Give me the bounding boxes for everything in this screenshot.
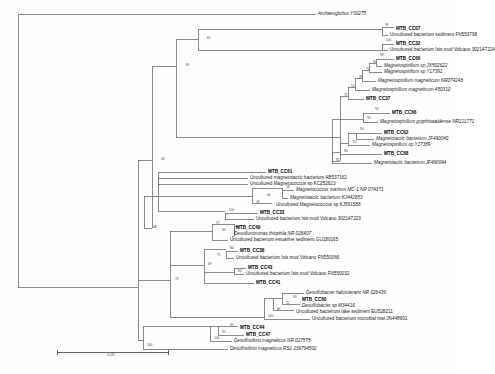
bootstrap-value: 98 (380, 54, 384, 57)
taxon-label: MTB_CC43 (248, 265, 272, 270)
taxon-label: Uncultured Magnetococcus sp KJ591588 (276, 202, 360, 207)
taxon-label: MTB_CC66 (396, 56, 420, 61)
bootstrap-value: 99 (385, 24, 389, 27)
taxon-label: MTB_CC66 (392, 110, 416, 115)
taxon-label: Magnetotactic bacterium JF490044 (374, 160, 446, 165)
scale-bar-label: 0.05 (108, 353, 115, 357)
bootstrap-value: 72 (344, 94, 348, 97)
taxon-label: MTB_CC68 (384, 151, 408, 156)
taxon-label: MTB_CC61 (268, 169, 292, 174)
bootstrap-value: 58 (256, 201, 260, 204)
bootstrap-value: 85 (186, 64, 190, 67)
bootstrap-value: 48 (153, 226, 157, 229)
taxon-label: Magnetococcus marinus MC-1 NR 074371 (296, 187, 384, 192)
taxon-label: Uncultured bacterium lake sediment EU528… (296, 309, 393, 314)
bootstrap-value: 51 (286, 302, 290, 305)
bootstrap-value: 74 (175, 278, 179, 281)
bootstrap-value: 96 (344, 150, 348, 153)
taxon-label: MTB_CC60 (302, 297, 326, 302)
taxon-label: Uncultured magnetotactic bacterium AB537… (250, 175, 347, 180)
taxon-label: MTB_CC44 (240, 325, 264, 330)
taxon-label: MTB_CC32 (396, 41, 420, 46)
bootstrap-value: 69 (208, 263, 212, 266)
taxon-label: Magnetotactic bacterium KJ442653 (290, 195, 363, 200)
bootstrap-value: 85 (230, 324, 234, 327)
bootstrap-value: 70 (366, 68, 370, 71)
taxon-label: Uncultured bacterium microbial mat JN448… (312, 316, 407, 321)
bootstrap-value: 100 (229, 209, 234, 212)
taxon-label: Uncultured bacterium Isis mud Volcano 30… (256, 216, 361, 221)
bootstrap-value: 97 (216, 222, 220, 225)
taxon-label: Uncultured bacterium estuarine sediment … (230, 237, 338, 242)
bootstrap-value: 61 (207, 37, 211, 40)
taxon-label: MTB_CC49 (236, 225, 260, 230)
bootstrap-value: 100 (268, 315, 273, 318)
taxon-label: Uncultured bacterium Isis mud Volcano FN… (236, 255, 339, 260)
taxon-label: Magnetospirillum gryphiswaldense NR12177… (380, 119, 474, 124)
bootstrap-value: 100 (214, 337, 219, 340)
taxon-label: Desulfovibrio magneticus NR 027575 (234, 338, 311, 343)
taxon-label: Desulfovibrio magneticus RS1 239794502 (230, 346, 317, 351)
taxon-label: Magnetospirillum magneticum NR074248 (378, 78, 463, 83)
taxon-label: Archaeoglobus Y00275 (318, 11, 366, 16)
bootstrap-value: 44 (161, 158, 165, 161)
bootstrap-value: 63 (293, 296, 297, 299)
bootstrap-value: 100 (147, 344, 152, 347)
taxon-label: MTB_CC47 (246, 332, 270, 337)
bootstrap-value: 39 (359, 76, 363, 79)
bootstrap-value: 71 (217, 254, 221, 257)
taxon-label: MTB_CC41 (256, 280, 280, 285)
taxon-label: MTB_CC33 (260, 210, 284, 215)
taxon-label: Uncultured bacterium Isis mud Volcano 30… (390, 47, 495, 52)
bootstrap-value: 100 (386, 39, 391, 42)
bootstrap-value: 30 (367, 117, 371, 120)
taxon-label: Uncultured Magnetococcus sp KC252623 (250, 181, 336, 186)
taxon-label: Magnetospirillum sp Y17389 (372, 142, 430, 147)
bootstrap-value: 83 (222, 229, 226, 232)
taxon-label: Magnetospirillum sp Y17391 (384, 69, 442, 74)
bootstrap-value: 55 (353, 141, 357, 144)
taxon-label: Magnetospirillum sp JX502622 (384, 63, 447, 68)
taxon-label: Uncultured bacterium Isis mud Volcano FN… (246, 271, 349, 276)
taxon-label: Magnetospirillum magneticum 450310 (372, 87, 450, 92)
bootstrap-value: 95 (222, 331, 226, 334)
taxon-label: Desulfuromonas thiophila NR 026407 (234, 231, 311, 236)
bootstrap-value: 65 (373, 61, 377, 64)
bootstrap-value: 56 (286, 186, 290, 189)
taxon-label: MTB_CC37 (366, 96, 390, 101)
bootstrap-value: 99 (375, 108, 379, 111)
bootstrap-value: 90 (360, 128, 364, 131)
bootstrap-value: 84 (238, 270, 242, 273)
taxon-label: Uncultured bacterium sediment FN553798 (390, 32, 477, 37)
bootstrap-value: 66 (277, 308, 281, 311)
taxon-label: MTB_CC62 (384, 130, 408, 135)
bootstrap-value: 81 (336, 159, 340, 162)
taxon-label: Desulfobacter sp M34416 (302, 303, 355, 308)
taxon-label: Magnetotactic bacterium JF490040 (376, 136, 448, 141)
taxon-label: MTB_CC38 (240, 248, 264, 253)
taxon-label: MTB_CC07 (396, 26, 420, 31)
bootstrap-value: 52 (351, 85, 355, 88)
bootstrap-value: 84 (230, 247, 234, 250)
bootstrap-value: 60 (267, 194, 271, 197)
taxon-label: Desulfobacter halotolerans NR 026439 (306, 290, 386, 295)
